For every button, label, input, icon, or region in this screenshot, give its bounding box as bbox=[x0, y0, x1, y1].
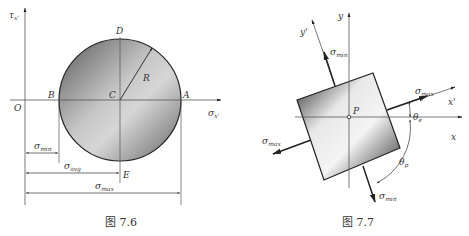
figure-caption-7-7: 图 7.7 bbox=[342, 216, 374, 229]
theta-p-label: θp bbox=[399, 157, 408, 169]
sigma-max-label: σmax bbox=[95, 181, 114, 192]
tau-axis-label: τx' bbox=[9, 10, 19, 21]
stress-label-right: σmax bbox=[415, 86, 434, 97]
theta-e-label: θe bbox=[413, 112, 422, 123]
point-a-label: A bbox=[182, 90, 190, 100]
point-e-label: E bbox=[122, 170, 130, 180]
stress-label-top: σmin bbox=[330, 47, 348, 58]
point-c-label: C bbox=[109, 90, 116, 100]
mohr-circle-figure: τx' σx' O B C A D E R σmin σavg σmax 图 7… bbox=[9, 8, 221, 229]
y-axis-label: y bbox=[337, 11, 344, 21]
y-prime-label: y' bbox=[299, 27, 308, 37]
stress-arrow-right bbox=[387, 96, 427, 110]
sigma-min-label: σmin bbox=[34, 141, 52, 152]
x-prime-label: x' bbox=[448, 97, 456, 107]
point-d-label: D bbox=[115, 26, 123, 36]
point-b-label: B bbox=[47, 90, 55, 100]
radius-label: R bbox=[142, 73, 150, 83]
rotated-stress-element bbox=[297, 73, 400, 180]
x-axis-label: x bbox=[451, 132, 456, 142]
sigma-axis-label: σx' bbox=[208, 108, 220, 119]
stress-label-left: σmax bbox=[262, 136, 281, 147]
figure-caption-7-6: 图 7.6 bbox=[105, 216, 137, 229]
origin-label: O bbox=[14, 103, 22, 113]
stress-label-bottom: σmin bbox=[379, 191, 397, 202]
stress-element-figure: P x' x y y' σmin σmax σmax σmin θe θp 图 … bbox=[262, 11, 462, 229]
diagram-canvas: τx' σx' O B C A D E R σmin σavg σmax 图 7… bbox=[0, 0, 469, 236]
stress-arrow-bottom bbox=[363, 166, 375, 202]
sigma-avg-label: σavg bbox=[64, 161, 81, 173]
theta-e-arc bbox=[409, 102, 410, 117]
stress-arrow-top bbox=[324, 52, 335, 86]
point-p-label: P bbox=[352, 106, 360, 116]
point-p bbox=[347, 115, 351, 119]
